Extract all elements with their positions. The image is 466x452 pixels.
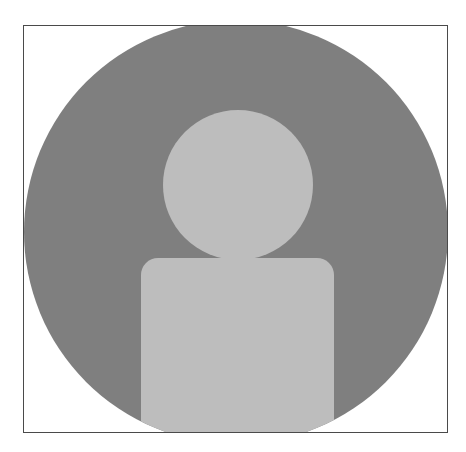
avatar-frame: Default user avatar placeholder: [23, 25, 448, 433]
avatar-body: [141, 258, 334, 432]
user-silhouette-icon: [24, 26, 447, 432]
avatar-head: [163, 110, 313, 260]
